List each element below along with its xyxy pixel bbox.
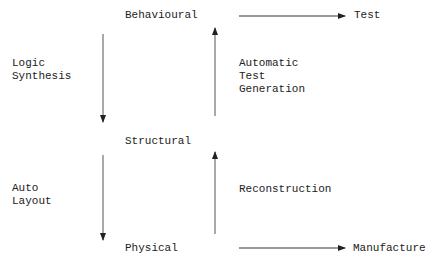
output-test: Test <box>354 9 380 22</box>
label-auto-layout-line-1: Auto <box>12 182 38 195</box>
label-auto-layout-line-2: Layout <box>12 195 52 208</box>
output-manufacture: Manufacture <box>353 242 426 255</box>
level-structural: Structural <box>125 135 191 148</box>
level-physical: Physical <box>125 242 178 255</box>
level-behavioural: Behavioural <box>125 9 198 22</box>
label-reconstruction: Reconstruction <box>239 183 331 196</box>
label-atg-line-1: Automatic <box>239 57 298 70</box>
arrows-layer <box>0 0 437 267</box>
label-logic-synthesis-line-1: Logic <box>12 57 45 70</box>
label-atg-line-3: Generation <box>239 83 305 96</box>
label-atg-line-2: Test <box>239 70 265 83</box>
label-logic-synthesis-line-2: Synthesis <box>12 70 71 83</box>
